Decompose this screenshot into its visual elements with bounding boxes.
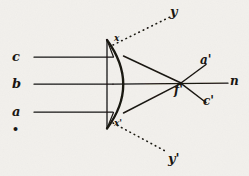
label-stray-dot: • <box>12 124 19 135</box>
label-optical-axis-n: n <box>230 75 239 87</box>
label-lens-edge-bottom: x' <box>114 119 122 128</box>
label-axis-y-top: y <box>170 5 178 18</box>
label-incident-ray-c: c <box>12 50 20 63</box>
label-incident-ray-b: b <box>12 77 21 90</box>
label-axis-y-bottom: y' <box>168 152 180 165</box>
optics-figure: c b a • x x' y y' a' c' f' n <box>0 0 249 176</box>
label-emergent-ray-a-prime: a' <box>200 54 211 66</box>
label-focal-point: f' <box>174 84 183 96</box>
label-emergent-ray-c-prime: c' <box>203 95 214 107</box>
lens-diagram-canvas <box>0 0 249 176</box>
label-incident-ray-a: a <box>12 105 20 118</box>
label-lens-edge-top: x <box>114 34 119 43</box>
figure-background <box>0 0 249 176</box>
